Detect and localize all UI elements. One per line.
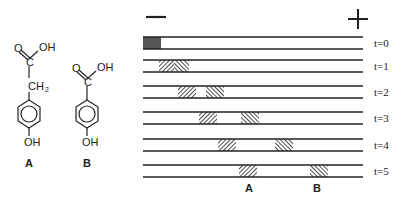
- band: [239, 165, 257, 177]
- mol-a-label: A: [25, 157, 33, 169]
- mol-a-ch: CH: [28, 80, 44, 92]
- mol-a-c: C: [26, 56, 34, 68]
- time-label: t=3: [374, 112, 389, 124]
- band: [310, 165, 328, 177]
- time-label: t=5: [374, 165, 389, 177]
- band: [174, 60, 189, 72]
- time-label: t=0: [374, 37, 389, 49]
- band: [218, 139, 236, 151]
- diagram-canvas: O OH C CH 2 OH A O OH C OH B t=0t=1t=2t=…: [0, 0, 403, 204]
- band: [199, 112, 217, 124]
- band-label-b: B: [313, 182, 321, 194]
- lane-t0: t=0: [143, 37, 389, 49]
- band-label-a: A: [245, 182, 253, 194]
- lane-t2: t=2: [143, 86, 389, 98]
- band: [178, 86, 196, 98]
- time-label: t=1: [374, 60, 389, 72]
- mol-a-o: O: [14, 42, 23, 54]
- mol-b-c: C: [84, 76, 92, 88]
- band: [143, 37, 161, 49]
- positive-electrode-icon: [348, 9, 368, 29]
- lane-t5: t=5: [143, 165, 389, 177]
- time-label: t=4: [374, 139, 389, 151]
- mol-b-o: O: [72, 62, 81, 74]
- mol-b-label: B: [83, 157, 91, 169]
- mol-b-oh-bottom: OH: [82, 136, 99, 148]
- lane-t3: t=3: [143, 112, 389, 124]
- lane-t4: t=4: [143, 139, 389, 151]
- band: [275, 139, 293, 151]
- time-label: t=2: [374, 86, 389, 98]
- mol-a-sub: 2: [45, 86, 49, 93]
- gel-lanes: t=0t=1t=2t=3t=4t=5: [143, 37, 389, 177]
- band: [206, 86, 224, 98]
- band: [159, 60, 174, 72]
- mol-a-oh-top: OH: [39, 41, 56, 53]
- mol-b-oh-top: OH: [97, 61, 114, 73]
- band: [241, 112, 259, 124]
- lane-t1: t=1: [143, 60, 389, 72]
- mol-a-oh-bottom: OH: [24, 136, 41, 148]
